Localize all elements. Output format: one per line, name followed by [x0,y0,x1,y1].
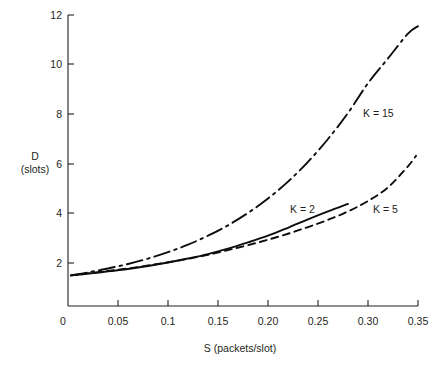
axis-group [68,15,418,306]
y-axis-title-line1: D [31,150,39,162]
x-tick-label-0-20: 0.20 [258,315,279,327]
x-tick-label-0-30: 0.30 [358,315,379,327]
series-label-k5: K = 5 [373,203,398,215]
x-tick-label-0-25: 0.25 [308,315,329,327]
y-tick-label-12: 12 [50,9,62,21]
x-tick-labels: 0 0.05 0.1 0.15 0.20 0.25 0.30 0.35 [60,315,428,327]
chart-figure: 12 10 8 6 4 2 0 0.05 0.1 0.15 0.20 0.25 … [0,0,442,365]
y-tick-labels: 12 10 8 6 4 2 [50,9,62,269]
x-tick-label-0-05: 0.05 [108,315,129,327]
x-tick-label-0: 0 [60,315,66,327]
x-tick-label-0-35: 0.35 [408,315,429,327]
series-line-k15 [71,26,418,275]
y-tick-label-8: 8 [56,108,62,120]
y-tick-label-10: 10 [50,58,62,70]
series-label-k15: K = 15 [363,107,394,119]
y-tick-marks [68,15,74,263]
plot-area: 12 10 8 6 4 2 0 0.05 0.1 0.15 0.20 0.25 … [0,0,442,365]
x-tick-marks [118,300,418,306]
y-tick-label-4: 4 [56,207,62,219]
y-tick-label-6: 6 [56,158,62,170]
x-tick-label-0-15: 0.15 [208,315,229,327]
x-tick-label-0-1: 0.1 [161,315,176,327]
x-axis-title: S (packets/slot) [204,342,276,354]
series-label-k2: K = 2 [290,203,315,215]
y-axis-title-line2: (slots) [21,163,50,175]
y-tick-label-2: 2 [56,257,62,269]
